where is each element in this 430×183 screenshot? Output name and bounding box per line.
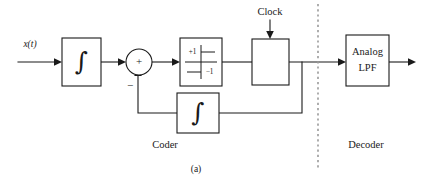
feedback-integrator-symbol: ∫	[191, 98, 204, 127]
lpf-label-line2: LPF	[358, 62, 376, 73]
coder-section-label: Coder	[152, 139, 178, 150]
forward-integrator-symbol: ∫	[75, 47, 88, 76]
lpf-label-line1: Analog	[352, 46, 384, 57]
quantizer-lower-level-label: −1	[206, 68, 214, 76]
block-feedback-integrator: ∫	[177, 93, 219, 133]
wire-summer-to-quantizer	[152, 58, 180, 66]
summing-junction: + −	[126, 49, 152, 91]
figure-caption: (a)	[191, 164, 202, 175]
wire-clock-to-sampler	[266, 20, 274, 39]
delta-modulation-block-diagram: ∫ + − +1 −1 ∫	[0, 0, 430, 183]
decoder-section-label: Decoder	[348, 139, 384, 150]
summer-plus-sign: +	[136, 55, 142, 67]
wire-input-to-integrator	[18, 58, 62, 66]
diagram-canvas: ∫ + − +1 −1 ∫	[0, 0, 430, 183]
quantizer-upper-level-label: +1	[189, 48, 197, 56]
block-quantizer: +1 −1	[180, 38, 222, 86]
block-forward-integrator: ∫	[62, 38, 101, 86]
clock-label: Clock	[257, 6, 283, 17]
summer-minus-sign: −	[127, 79, 133, 91]
wire-lpf-output	[389, 58, 416, 66]
block-sampler	[252, 39, 289, 85]
wire-integrator-to-summer	[101, 58, 126, 66]
block-analog-lpf: Analog LPF	[346, 35, 389, 86]
input-signal-label: x(t)	[22, 39, 36, 50]
